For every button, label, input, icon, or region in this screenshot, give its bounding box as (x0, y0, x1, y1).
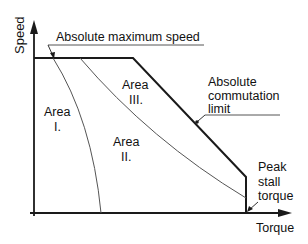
stall-label-line2: stall (258, 175, 280, 189)
y-axis-arrow-icon (30, 20, 38, 34)
area-i-boundary-curve (53, 58, 101, 213)
x-axis-arrow-icon (278, 209, 292, 217)
area-i-label-line2: I. (54, 120, 61, 134)
area-iii-label-line2: III. (129, 93, 143, 107)
area-ii-label-line2: II. (121, 150, 131, 164)
commutation-leader (198, 115, 205, 121)
area-iii-label-line1: Area (122, 78, 148, 92)
area-ii-label-line1: Area (113, 135, 139, 149)
y-axis-label: Speed (12, 16, 27, 54)
stall-label-line3: torque (258, 189, 293, 203)
max-speed-label: Absolute maximum speed (56, 30, 200, 44)
x-axis-label: Torque (256, 221, 294, 235)
area-i-label-line1: Area (44, 105, 70, 119)
speed-torque-diagram: Absolute maximum speed Absolute commutat… (0, 0, 308, 244)
stall-label-line1: Peak (258, 160, 287, 174)
commutation-label-line2: commutation (208, 89, 280, 103)
commutation-label-line1: Absolute (208, 75, 257, 89)
commutation-leader-dot-icon (195, 120, 199, 124)
commutation-label-line3: limit (208, 102, 231, 116)
